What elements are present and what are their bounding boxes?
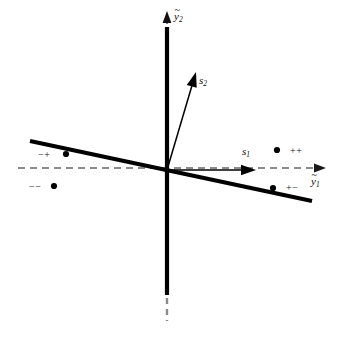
principal-axis-line [30, 141, 312, 201]
point-plus-plus [274, 147, 280, 153]
diagram-canvas [0, 0, 338, 338]
s2-vector-shaft [167, 83, 193, 170]
point-minus-minus [51, 183, 57, 189]
point-label-plus-minus: +− [286, 183, 298, 193]
point-plus-minus [270, 185, 276, 191]
scatter-axes-diagram: ~y1 ~y2 s1 s2 −+ −− ++ +− [0, 0, 338, 338]
s2-label-subscript: 2 [203, 79, 207, 88]
y1-axis-label: ~y1 [311, 176, 320, 189]
point-label-minus-plus: −+ [38, 150, 50, 160]
y1-tilde-mark: ~ [312, 170, 317, 180]
s2-vector-arrowhead [187, 72, 197, 88]
s1-vector-label: s1 [242, 146, 250, 159]
s1-label-subscript: 1 [246, 150, 250, 159]
point-minus-plus [63, 151, 69, 157]
y2-axis-label: ~y2 [174, 11, 183, 24]
y2-tilde-mark: ~ [175, 5, 180, 15]
point-label-minus-minus: −− [29, 182, 41, 192]
point-label-plus-plus: ++ [290, 146, 302, 156]
y2-axis-arrowhead [163, 11, 172, 23]
y1-label-subscript: 1 [316, 180, 320, 189]
y2-label-subscript: 2 [179, 15, 183, 24]
s1-vector-arrowhead [241, 165, 256, 175]
s2-vector-label: s2 [199, 75, 207, 88]
